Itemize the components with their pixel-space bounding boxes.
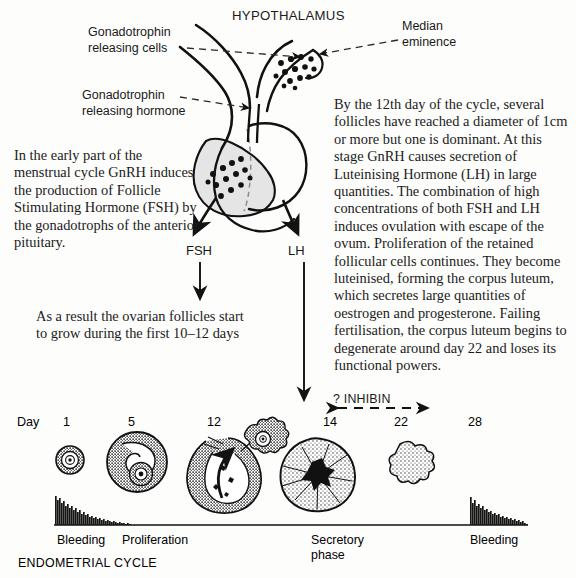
caption-endometrial-cycle: ENDOMETRIAL CYCLE xyxy=(18,556,157,570)
label-gonadotrophin-releasing-hormone: Gonadotrophin releasing hormone xyxy=(82,87,222,119)
day-tick-14: 14 xyxy=(323,415,337,429)
paragraph-ovulation-corpus-luteum: By the 12th day of the cycle, several fo… xyxy=(334,96,570,375)
phase-label-secretory-line1: Secretory xyxy=(311,533,375,548)
label-hypothalamus: HYPOTHALAMUS xyxy=(232,8,345,24)
stage-primordial-follicle-day1 xyxy=(56,446,84,474)
lh-secretion-arrow xyxy=(283,200,298,234)
anterior-pituitary-gland xyxy=(194,129,275,216)
stage-corpus-luteum-day14 xyxy=(280,438,355,511)
day-tick-28: 28 xyxy=(468,415,482,429)
label-gonadotrophin-releasing-cells-line1: Gonadotrophin xyxy=(88,24,218,40)
phase-label-proliferation: Proliferation xyxy=(122,533,188,547)
bleeding-histogram-start xyxy=(55,496,131,525)
label-day-axis: Day xyxy=(17,415,39,429)
bleeding-histogram-end xyxy=(470,497,528,525)
day-tick-1: 1 xyxy=(63,415,70,429)
label-gonadotrophin-releasing-hormone-line1: Gonadotrophin xyxy=(82,87,222,103)
label-median-eminence-line2: eminence xyxy=(402,34,492,50)
released-ovum xyxy=(245,417,289,453)
paragraph-early-cycle-fsh: In the early part of the menstrual cycle… xyxy=(14,147,200,251)
paragraph-follicle-growth-result: As a result the ovarian follicles start … xyxy=(36,308,256,343)
label-median-eminence-line1: Median xyxy=(402,18,492,34)
phase-label-bleeding-start: Bleeding xyxy=(57,533,105,547)
day-tick-22: 22 xyxy=(394,415,408,429)
label-inhibin: ? INHIBIN xyxy=(333,391,391,407)
label-gonadotrophin-releasing-cells: Gonadotrophin releasing cells xyxy=(88,24,218,56)
day-tick-12: 12 xyxy=(207,415,221,429)
phase-label-secretory-line2: phase xyxy=(311,548,375,563)
stage-antral-follicle-day5 xyxy=(107,432,167,492)
stage-corpus-albicans-day22 xyxy=(389,441,434,483)
phase-label-secretory-phase: Secretory phase xyxy=(311,533,375,563)
label-median-eminence: Median eminence xyxy=(402,18,492,50)
gonadotroph-cells-dots xyxy=(206,156,253,199)
posterior-pituitary-lobe xyxy=(249,123,306,210)
label-gonadotrophin-releasing-hormone-line2: releasing hormone xyxy=(82,103,222,119)
stage-ovulating-follicle-day12 xyxy=(187,417,289,513)
gonadotrophin-releasing-cells-dots xyxy=(274,54,317,90)
label-fsh: FSH xyxy=(186,243,212,259)
figure-canvas: Gonadotrophin releasing cells Median emi… xyxy=(0,0,576,578)
day-tick-5: 5 xyxy=(128,415,135,429)
label-gonadotrophin-releasing-cells-line2: releasing cells xyxy=(88,40,218,56)
label-lh: LH xyxy=(288,243,305,259)
phase-label-bleeding-end: Bleeding xyxy=(470,533,518,547)
